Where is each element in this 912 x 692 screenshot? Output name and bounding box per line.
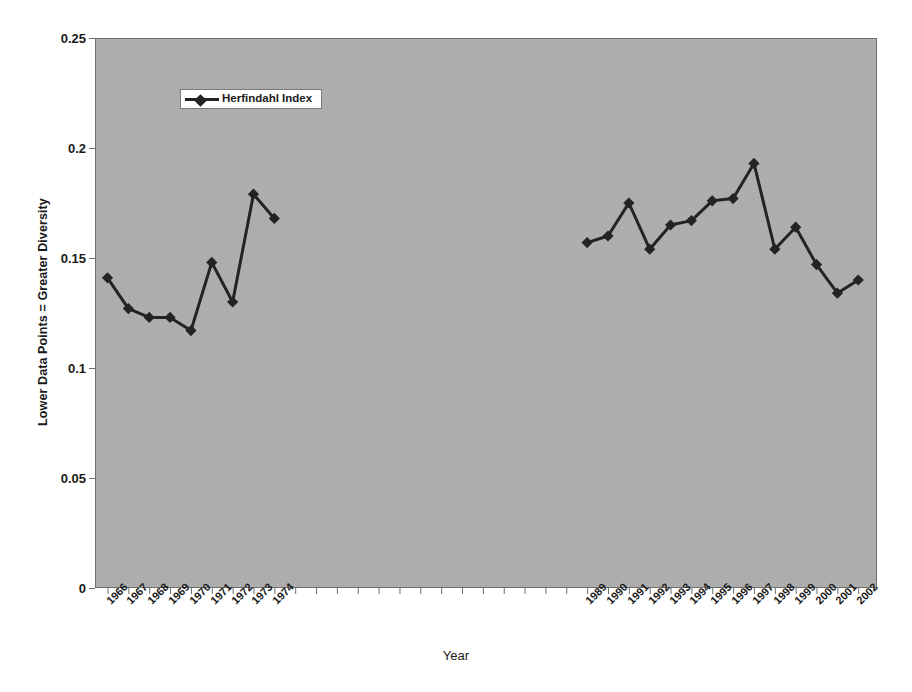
plot-background — [95, 38, 877, 588]
legend-label: Herfindahl Index — [222, 93, 312, 105]
legend-diamond-marker — [194, 94, 207, 107]
legend: Herfindahl Index — [180, 89, 322, 109]
chart-figure: Lower Data Points = Greater Diversity Ye… — [0, 0, 912, 692]
legend-line-swatch — [185, 98, 219, 101]
